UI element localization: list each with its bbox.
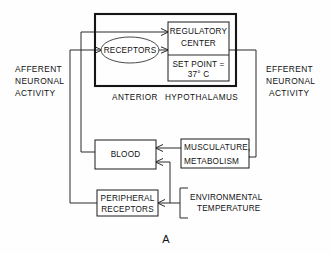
afferent-label-line1: AFFERENT (15, 64, 62, 74)
environmental-temperature-bracket (180, 188, 188, 218)
receptors-label: RECEPTORS (104, 46, 157, 55)
blood-label: BLOOD (111, 150, 141, 159)
peripheral-label-line2: RECEPTORS (101, 205, 154, 214)
efferent-label-line2: NEURONAL (266, 76, 315, 86)
musculature-label: MUSCULATURE, (184, 143, 250, 152)
afferent-label-line2: NEURONAL (15, 76, 64, 86)
efferent-label-line3: ACTIVITY (269, 88, 310, 98)
regulatory-center-label-line1: REGULATORY (170, 27, 228, 36)
environmental-label-line2: TEMPERATURE (197, 204, 261, 213)
afferent-label-line3: ACTIVITY (15, 88, 56, 98)
peripheral-label-line1: PERIPHERAL (101, 194, 155, 203)
connector-peripheral-receptors-to-receptors (70, 50, 101, 203)
set-point-value: 37° C (188, 70, 210, 79)
anterior-label: ANTERIOR (112, 93, 158, 102)
metabolism-label: METABOLISM (184, 157, 239, 166)
set-point-label-line1: SET POINT = (172, 60, 224, 69)
environmental-label-line1: ENVIRONMENTAL (190, 193, 263, 202)
regulatory-center-label-line2: CENTER (181, 39, 216, 48)
hypothalamus-label: HYPOTHALAMUS (165, 93, 238, 102)
efferent-label-line1: EFFERENT (266, 64, 313, 74)
panel-label: A (162, 233, 170, 245)
thermoregulation-diagram: RECEPTORS REGULATORY CENTER SET POINT = … (0, 0, 332, 254)
diagram-canvas: RECEPTORS REGULATORY CENTER SET POINT = … (0, 0, 332, 254)
